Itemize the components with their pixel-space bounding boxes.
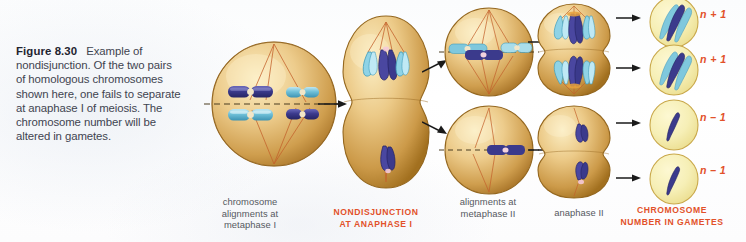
stage-label-nondisjunction-line1: NONDISJUNCTION — [316, 207, 436, 219]
ploidy-label-1: n + 1 — [700, 8, 726, 20]
gamete-cell-1 — [648, 0, 700, 48]
gamete-cell-3 — [648, 99, 700, 151]
arrow-anaphase-ii-to-gamete-4 — [616, 172, 642, 184]
gamete-cell-4 — [648, 153, 700, 205]
gamete-cell-2 — [648, 44, 700, 96]
stage-label-metaphase-i-line2: alignments at — [196, 208, 304, 220]
stage-label-gametes-line1: CHROMOSOME — [598, 205, 746, 217]
stage-label-metaphase-i-line1: chromosome — [196, 196, 304, 208]
arrow-anaphase-ii-to-gamete-1 — [616, 12, 642, 24]
ploidy-label-2: n + 1 — [700, 53, 726, 65]
cell-anaphase-ii-bottom — [534, 104, 614, 200]
stage-label-metaphase-ii-line2: metaphase II — [440, 208, 536, 220]
cell-nondisjunction-anaphase-i — [340, 14, 432, 190]
figure-caption-text: Example of nondisjunction. Of the two pa… — [16, 45, 181, 142]
stage-label-gametes: CHROMOSOME NUMBER IN GAMETES — [598, 205, 746, 228]
cell-metaphase-ii-top — [443, 6, 535, 98]
stage-label-nondisjunction: NONDISJUNCTION AT ANAPHASE I — [316, 207, 436, 230]
chromosomes-top-pole — [576, 124, 588, 142]
stage-label-metaphase-i: chromosome alignments at metaphase I — [196, 196, 304, 231]
stage-label-gametes-line2: NUMBER IN GAMETES — [598, 217, 746, 229]
stage-label-metaphase-ii-line1: alignments at — [440, 196, 536, 208]
figure-number: Figure 8.30 — [16, 45, 77, 57]
stage-label-metaphase-ii: alignments at metaphase II — [440, 196, 536, 219]
stage-label-metaphase-i-line3: metaphase I — [196, 219, 304, 231]
cell-anaphase-ii-top — [534, 2, 614, 98]
arrow-anaphase-ii-to-gamete-2 — [616, 62, 642, 74]
ploidy-label-4: n – 1 — [700, 164, 726, 176]
cell-metaphase-ii-bottom — [443, 104, 535, 196]
stage-label-nondisjunction-line2: AT ANAPHASE I — [316, 219, 436, 231]
ploidy-label-3: n – 1 — [700, 111, 726, 123]
chromosomes-bottom-pole — [381, 146, 395, 173]
figure-panel: Figure 8.30Example of nondisjunction. Of… — [0, 0, 746, 242]
arrow-anaphase-ii-to-gamete-3 — [616, 117, 642, 129]
figure-caption: Figure 8.30Example of nondisjunction. Of… — [16, 44, 184, 143]
